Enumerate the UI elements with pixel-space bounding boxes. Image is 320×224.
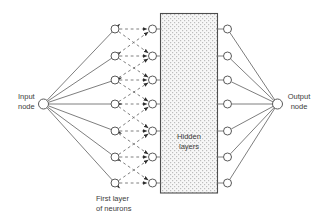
pre-hidden-node bbox=[149, 153, 157, 161]
connection-line bbox=[49, 106, 122, 134]
pre-hidden-node bbox=[149, 179, 157, 187]
first-layer-neuron-node bbox=[111, 153, 119, 161]
input-node-label-line1: Input bbox=[18, 92, 35, 102]
pre-hidden-node bbox=[149, 25, 157, 33]
post-hidden-node bbox=[224, 179, 232, 187]
connection-line bbox=[47, 24, 120, 100]
hidden-layers-label-line2: layers bbox=[161, 142, 217, 152]
connection-line bbox=[231, 104, 277, 129]
pre-hidden-node bbox=[149, 76, 157, 84]
connection-line bbox=[48, 52, 121, 101]
post-hidden-node bbox=[224, 76, 232, 84]
connection-line bbox=[231, 59, 278, 104]
neural-network-diagram: Input node Output node First layer of ne… bbox=[0, 0, 320, 224]
first-layer-neuron-node bbox=[111, 76, 119, 84]
first-layer-neuron-node bbox=[111, 179, 119, 187]
first-layer-label: First layer of neurons bbox=[96, 194, 131, 214]
connection-line bbox=[47, 108, 120, 188]
output-node-label-line2: node bbox=[286, 102, 312, 112]
dashed-connection-line bbox=[119, 160, 149, 181]
first-layer-label-line2: of neurons bbox=[96, 204, 131, 214]
pre-hidden-node bbox=[149, 52, 157, 60]
post-hidden-node bbox=[224, 127, 232, 135]
connection-line bbox=[49, 78, 122, 102]
connection-line bbox=[230, 33, 278, 104]
output-node-label-line1: Output bbox=[286, 92, 312, 102]
connection-line bbox=[231, 104, 278, 154]
input-node bbox=[39, 99, 49, 109]
output-node bbox=[273, 99, 283, 109]
post-hidden-node bbox=[224, 52, 232, 60]
output-node-label: Output node bbox=[286, 92, 312, 112]
post-hidden-node bbox=[224, 25, 232, 33]
pre-hidden-node bbox=[149, 127, 157, 135]
connection-line bbox=[48, 107, 121, 161]
hidden-layers-label: Hidden layers bbox=[161, 132, 217, 152]
pre-hidden-node bbox=[149, 100, 157, 108]
dashed-connection-line bbox=[119, 134, 149, 155]
post-hidden-node bbox=[224, 100, 232, 108]
first-layer-neuron-node bbox=[111, 100, 119, 108]
connection-line bbox=[230, 104, 278, 179]
first-layer-neuron-node bbox=[111, 127, 119, 135]
hidden-layers-box bbox=[161, 14, 218, 194]
first-layer-neuron-node bbox=[111, 25, 119, 33]
input-node-label-line2: node bbox=[18, 102, 35, 112]
post-hidden-node bbox=[224, 153, 232, 161]
input-node-label: Input node bbox=[18, 92, 35, 112]
diagram-canvas bbox=[0, 0, 320, 224]
hidden-layers-label-line1: Hidden bbox=[161, 132, 217, 142]
first-layer-label-line1: First layer bbox=[96, 194, 131, 204]
first-layer-neuron-node bbox=[111, 52, 119, 60]
